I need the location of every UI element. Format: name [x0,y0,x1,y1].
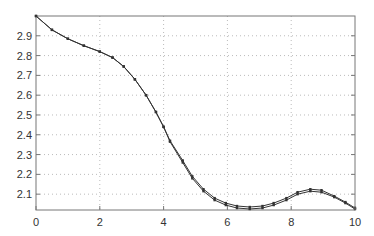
data-point-marker [225,204,227,206]
data-point-marker [261,207,263,209]
data-point-marker [67,38,69,40]
data-point-marker [155,111,157,113]
x-axis-ticks: 0246810 [33,206,361,228]
data-point-marker [333,196,335,198]
data-point-marker [134,78,136,80]
y-tick-label: 2.9 [17,30,32,42]
data-point-marker [202,190,204,192]
data-point-marker [35,15,37,17]
y-tick-label: 2.7 [17,69,32,81]
y-tick-label: 2.2 [17,168,32,180]
y-tick-label: 2.4 [17,129,32,141]
x-tick-label: 2 [97,216,103,228]
x-tick-label: 4 [161,216,167,228]
x-tick-label: 8 [288,216,294,228]
line-chart: 0246810 2.12.22.32.42.52.62.72.82.9 [0,0,374,236]
y-tick-label: 2.5 [17,109,32,121]
y-tick-label: 2.3 [17,149,32,161]
data-point-marker [249,208,251,210]
data-point-marker [111,56,113,58]
data-point-marker [162,126,164,128]
data-point-marker [285,199,287,201]
y-tick-label: 2.1 [17,188,32,200]
data-point-marker [169,141,171,143]
data-point-marker [123,65,125,67]
x-tick-label: 0 [33,216,39,228]
y-tick-label: 2.6 [17,89,32,101]
data-point-marker [236,207,238,209]
data-point-marker [145,94,147,96]
data-point-marker [213,199,215,201]
series-group [35,15,356,210]
data-point-marker [83,44,85,46]
data-point-marker [344,202,346,204]
data-point-marker [191,177,193,179]
x-tick-label: 6 [224,216,230,228]
data-point-marker [309,190,311,192]
data-point-marker [99,50,101,52]
x-tick-label: 10 [349,216,361,228]
data-point-marker [320,191,322,193]
data-point-marker [272,204,274,206]
data-point-marker [51,29,53,31]
data-point-marker [182,161,184,163]
data-point-marker [296,193,298,195]
y-tick-label: 2.8 [17,50,32,62]
